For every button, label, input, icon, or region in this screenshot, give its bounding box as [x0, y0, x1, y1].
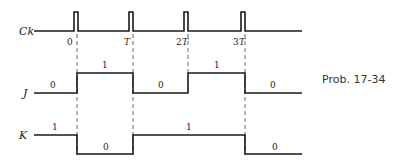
- tick-2T-num: 2: [176, 37, 182, 47]
- j-level-3: 1: [214, 60, 220, 70]
- k-label: K: [18, 129, 28, 142]
- ck-label: Ck: [19, 25, 34, 38]
- tick-0: 0: [67, 37, 73, 47]
- timing-diagram: Ck 0 T 2 T 3 T J 0 1 0 1 0 K 1 0 1 0 Pro…: [0, 0, 400, 165]
- j-level-1: 1: [102, 60, 108, 70]
- j-label: J: [21, 87, 28, 100]
- k-level-0: 1: [52, 122, 58, 132]
- j-level-0: 0: [50, 80, 56, 90]
- k-level-2: 1: [186, 122, 192, 132]
- tick-T: T: [124, 37, 131, 47]
- k-level-3: 0: [272, 142, 278, 152]
- ck-waveform: [34, 12, 302, 31]
- k-waveform: [34, 135, 302, 154]
- k-level-1: 0: [103, 142, 109, 152]
- j-waveform: [34, 73, 302, 93]
- problem-caption: Prob. 17-34: [322, 73, 385, 86]
- j-level-2: 0: [158, 80, 164, 90]
- j-level-4: 0: [270, 80, 276, 90]
